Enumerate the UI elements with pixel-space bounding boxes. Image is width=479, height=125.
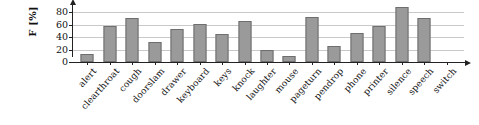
x-tick-mark (289, 62, 290, 65)
bar[interactable] (328, 46, 341, 62)
bar-slot[interactable] (98, 6, 120, 62)
bar[interactable] (260, 50, 273, 63)
y-axis-title: F [%] (27, 0, 38, 44)
x-tick-mark (267, 62, 268, 65)
x-tick-mark (402, 62, 403, 65)
bar-series (72, 6, 464, 62)
bar-slot[interactable] (436, 6, 458, 62)
x-tick-mark (200, 62, 201, 65)
x-tick-mark (447, 62, 448, 65)
bar-chart: F [%] 020406080 alertclearthroatcoughdoo… (0, 0, 479, 125)
bar-slot[interactable] (278, 6, 300, 62)
x-tick-mark (334, 62, 335, 65)
x-tick-label: switch (430, 66, 458, 95)
y-axis-tick-labels: 020406080 (44, 6, 70, 62)
bar[interactable] (148, 42, 161, 62)
bar[interactable] (216, 34, 229, 62)
bar-slot[interactable] (166, 6, 188, 62)
bar[interactable] (418, 18, 431, 62)
x-axis-arrow-icon (465, 60, 471, 66)
x-axis-category-labels: alertclearthroatcoughdoorslamdrawerkeybo… (72, 64, 464, 124)
bar[interactable] (395, 7, 408, 62)
bar[interactable] (350, 33, 363, 62)
x-tick-mark (357, 62, 358, 65)
bar[interactable] (305, 17, 318, 62)
bar[interactable] (103, 26, 116, 62)
bar[interactable] (171, 29, 184, 62)
y-tick-label: 40 (56, 32, 68, 42)
bar[interactable] (81, 54, 94, 62)
y-tick-label: 60 (56, 20, 68, 30)
bar-slot[interactable] (391, 6, 413, 62)
bar[interactable] (238, 21, 251, 62)
y-axis-arrow-icon (70, 0, 76, 5)
x-tick-mark (312, 62, 313, 65)
y-tick-label: 0 (62, 57, 68, 67)
x-tick-mark (245, 62, 246, 65)
bar-slot[interactable] (143, 6, 165, 62)
y-tick-label: 20 (56, 45, 68, 55)
bar-slot[interactable] (233, 6, 255, 62)
x-tick-mark (132, 62, 133, 65)
bar-slot[interactable] (121, 6, 143, 62)
bar-slot[interactable] (323, 6, 345, 62)
bar-slot[interactable] (256, 6, 278, 62)
bar-slot[interactable] (413, 6, 435, 62)
bar-slot[interactable] (368, 6, 390, 62)
x-tick-mark (379, 62, 380, 65)
x-tick-mark (222, 62, 223, 65)
bar[interactable] (126, 18, 139, 62)
bar-slot[interactable] (188, 6, 210, 62)
bar-slot[interactable] (346, 6, 368, 62)
x-tick-mark (424, 62, 425, 65)
bar-slot[interactable] (301, 6, 323, 62)
x-tick-mark (87, 62, 88, 65)
x-tick-mark (155, 62, 156, 65)
bar[interactable] (373, 26, 386, 62)
bar[interactable] (193, 24, 206, 62)
x-tick-mark (177, 62, 178, 65)
bar-slot[interactable] (211, 6, 233, 62)
y-tick-label: 80 (56, 7, 68, 17)
x-tick-mark (110, 62, 111, 65)
bar-slot[interactable] (76, 6, 98, 62)
